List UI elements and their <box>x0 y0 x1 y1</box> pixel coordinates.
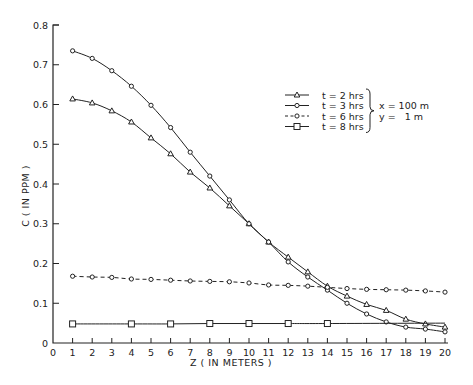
axes: 0123456789101112131415161718192000.10.20… <box>33 20 451 359</box>
circle-marker <box>384 288 388 292</box>
legend-label: t = 2 hrs <box>322 90 364 101</box>
circle-marker <box>188 279 192 283</box>
x-tick-label: 3 <box>109 347 115 358</box>
circle-marker <box>345 286 349 290</box>
square-marker <box>128 321 134 327</box>
circle-marker <box>129 84 133 88</box>
chart: 0123456789101112131415161718192000.10.20… <box>0 0 473 385</box>
y-tick-label: 0.3 <box>33 218 48 229</box>
triangle-marker <box>285 254 291 259</box>
y-tick-label: 0 <box>42 338 48 349</box>
circle-marker <box>71 49 75 53</box>
circle-marker <box>227 280 231 284</box>
circle-marker <box>345 301 349 305</box>
x-tick-label: 19 <box>419 347 431 358</box>
triangle-marker <box>442 324 448 329</box>
series-t-6-hrs <box>71 274 448 294</box>
circle-marker <box>169 278 173 282</box>
circle-marker <box>365 312 369 316</box>
circle-marker <box>247 281 251 285</box>
legend-circle-icon <box>295 114 299 118</box>
x-tick-label: 20 <box>439 347 451 358</box>
circle-marker <box>71 274 75 278</box>
x-tick-label: 5 <box>148 347 154 358</box>
x-tick-label: 18 <box>400 347 412 358</box>
square-marker <box>207 321 213 327</box>
circle-marker <box>149 103 153 107</box>
circle-marker <box>169 125 173 129</box>
x-tick-label: 14 <box>321 347 333 358</box>
series-layer <box>70 49 448 334</box>
legend-note: y = 1 m <box>379 111 423 122</box>
triangle-marker <box>364 301 370 306</box>
x-tick-label: 6 <box>168 347 174 358</box>
triangle-marker <box>109 108 115 113</box>
y-tick-label: 0.5 <box>33 139 48 150</box>
x-axis-label: Z ( IN METERS ) <box>190 357 272 368</box>
circle-marker <box>90 275 94 279</box>
series-t-3-hrs <box>71 49 448 334</box>
series-line <box>73 276 445 292</box>
square-marker <box>324 321 330 327</box>
legend: t = 2 hrst = 3 hrst = 6 hrst = 8 hrsx = … <box>285 89 429 133</box>
x-tick-label: 0 <box>50 347 56 358</box>
circle-marker <box>443 330 447 334</box>
circle-marker <box>188 150 192 154</box>
circle-marker <box>306 284 310 288</box>
square-marker <box>246 321 252 327</box>
circle-marker <box>208 279 212 283</box>
y-tick-label: 0.2 <box>33 258 48 269</box>
legend-label: t = 8 hrs <box>322 121 364 132</box>
legend-circle-icon <box>295 103 299 107</box>
circle-marker <box>110 69 114 73</box>
triangle-marker <box>70 96 76 101</box>
square-marker <box>168 321 174 327</box>
y-tick-label: 0.4 <box>33 179 48 190</box>
legend-square-icon <box>294 124 300 130</box>
circle-marker <box>404 288 408 292</box>
y-tick-label: 0.7 <box>33 59 48 70</box>
circle-marker <box>423 289 427 293</box>
legend-brace <box>366 89 374 133</box>
x-tick-label: 17 <box>380 347 392 358</box>
square-marker <box>70 321 76 327</box>
triangle-marker <box>89 100 95 105</box>
circle-marker <box>129 277 133 281</box>
legend-label: t = 3 hrs <box>322 100 364 111</box>
triangle-marker <box>403 316 409 321</box>
y-tick-label: 0.6 <box>33 99 48 110</box>
x-tick-label: 12 <box>282 347 294 358</box>
x-tick-label: 4 <box>128 347 134 358</box>
x-tick-label: 1 <box>70 347 76 358</box>
triangle-marker <box>129 119 135 124</box>
x-tick-label: 16 <box>361 347 373 358</box>
circle-marker <box>365 287 369 291</box>
triangle-marker <box>305 269 311 274</box>
circle-marker <box>443 290 447 294</box>
circle-marker <box>208 174 212 178</box>
circle-marker <box>149 277 153 281</box>
triangle-marker <box>383 307 389 312</box>
circle-marker <box>247 222 251 226</box>
legend-triangle-icon <box>294 92 300 97</box>
triangle-marker <box>344 293 350 298</box>
circle-marker <box>227 198 231 202</box>
y-tick-label: 0.1 <box>33 298 48 309</box>
x-tick-label: 2 <box>89 347 95 358</box>
circle-marker <box>325 285 329 289</box>
circle-marker <box>286 260 290 264</box>
circle-marker <box>90 56 94 60</box>
legend-label: t = 6 hrs <box>322 111 364 122</box>
x-tick-label: 15 <box>341 347 353 358</box>
circle-marker <box>267 283 271 287</box>
square-marker <box>285 321 291 327</box>
y-axis-label: C ( IN PPM ) <box>20 165 31 227</box>
series-t-2-hrs <box>70 96 448 329</box>
series-line <box>73 99 445 327</box>
y-tick-label: 0.8 <box>33 20 48 31</box>
circle-marker <box>404 325 408 329</box>
circle-marker <box>110 275 114 279</box>
legend-note: x = 100 m <box>379 100 429 111</box>
x-tick-label: 13 <box>302 347 314 358</box>
circle-marker <box>423 327 427 331</box>
